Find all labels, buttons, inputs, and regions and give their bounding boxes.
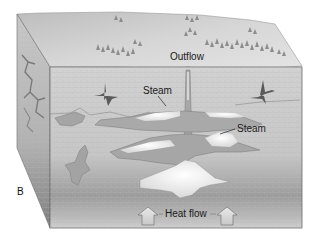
steam-upper-label: Steam <box>143 86 172 96</box>
geothermal-block-diagram: Outflow Steam Steam Heat flow B <box>0 0 316 243</box>
steam-lower-label: Steam <box>237 124 266 134</box>
panel-letter: B <box>17 186 24 197</box>
outflow-label: Outflow <box>170 52 204 62</box>
heat-flow-label: Heat flow <box>165 209 207 219</box>
land-surface <box>17 12 302 69</box>
block-diagram-svg <box>0 0 316 243</box>
